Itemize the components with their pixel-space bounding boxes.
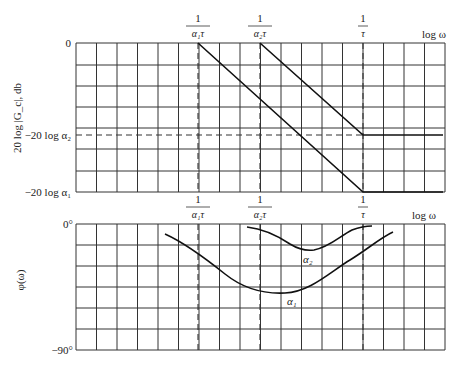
svg-text:α₁τ: α₁τ [192, 209, 205, 220]
svg-text:1: 1 [195, 193, 201, 205]
svg-text:1: 1 [257, 193, 263, 205]
magnitude-axis-label: 20 log |G_c|, db [11, 83, 23, 153]
alpha2-curve-label: α₂ [303, 253, 313, 265]
svg-text:1: 1 [360, 12, 366, 24]
svg-text:1: 1 [257, 12, 263, 24]
phase-tick-zero: 0° [63, 218, 73, 230]
bode-diagram: α₂ α₁ 1 α₁τ 1 α₂τ 1 τ log ω 1 α₁τ 1 α₂τ … [0, 0, 462, 370]
phase-tick-minus90: −90° [51, 344, 73, 356]
alpha2-magnitude-asymptote [260, 43, 443, 135]
mag-tick-zero: 0 [66, 37, 72, 49]
log-omega-label-top: log ω [422, 28, 446, 40]
middle-break-labels: 1 α₁τ 1 α₂τ 1 τ log ω [186, 193, 436, 221]
alpha1-curve-label: α₁ [287, 295, 297, 307]
phase-axis-label: φ(ω) [14, 269, 27, 290]
mag-tick-alpha1: −20 log α₁ [25, 186, 72, 198]
top-break-labels: 1 α₁τ 1 α₂τ 1 τ log ω [186, 12, 446, 40]
log-omega-label-bottom: log ω [412, 209, 436, 221]
svg-text:α₁τ: α₁τ [192, 28, 205, 39]
svg-text:α₂τ: α₂τ [254, 28, 267, 39]
svg-text:τ: τ [361, 209, 365, 220]
svg-text:1: 1 [360, 193, 366, 205]
mag-tick-alpha2: −20 log α₂ [25, 129, 72, 141]
svg-text:1: 1 [195, 12, 201, 24]
svg-text:τ: τ [361, 28, 365, 39]
svg-text:α₂τ: α₂τ [254, 209, 267, 220]
alpha2-phase-curve [247, 226, 372, 250]
